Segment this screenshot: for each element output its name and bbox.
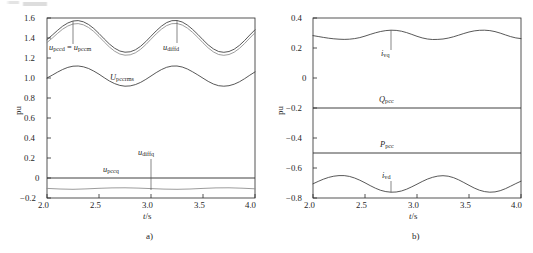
y-tick-label-b-6: −0.8	[286, 194, 302, 203]
y-tick-label-a-6: 0.4	[24, 134, 35, 143]
y-tick-label-a-7: 0.2	[24, 154, 35, 163]
x-tick-label-a-2: 3.0	[142, 201, 153, 210]
x-tick-label-b-3: 3.5	[460, 201, 471, 210]
y-tick-label-a-1: 1.4	[24, 34, 35, 43]
panel-caption-a: a)	[146, 231, 153, 241]
panel-b: 0.4 0.2 0 −0.2 −0.4 −0.6 −0.8 2.0 2.5 3.…	[266, 0, 532, 253]
y-tick-label-b-4: −0.4	[286, 134, 302, 143]
curve-label-U-pccrms: Upccrms	[110, 74, 134, 82]
y-tick-label-b-1: 0.2	[291, 44, 302, 53]
y-tick-label-a-8: 0	[35, 174, 39, 183]
x-tick-label-a-4: 4.0	[245, 201, 256, 210]
panel-caption-b: b)	[412, 231, 420, 241]
figure-container: 1.6 1.4 1.2 1.0 0.8 0.6 0.4 0.2 0 −0.2 2…	[0, 0, 533, 253]
curve-label-P-pcc: Ppcc	[380, 141, 394, 149]
y-axis-label-a: pu	[14, 106, 23, 115]
x-tick-label-a-0: 2.0	[38, 201, 49, 210]
y-tick-label-a-4: 0.8	[24, 94, 35, 103]
y-axis-label-b: pu	[276, 106, 285, 115]
x-axis-label-b: t/s	[409, 212, 417, 221]
x-tick-label-b-4: 4.0	[511, 201, 522, 210]
x-tick-label-b-1: 2.5	[356, 201, 367, 210]
y-tick-label-b-0: 0.4	[291, 14, 302, 23]
x-tick-label-a-3: 3.5	[194, 201, 205, 210]
curve-U-pccrms	[47, 66, 255, 86]
y-tick-label-a-0: 1.6	[24, 14, 35, 23]
x-tick-label-a-1: 2.5	[90, 201, 101, 210]
x-axis-label-a: t/s	[143, 212, 151, 221]
panel-a: 1.6 1.4 1.2 1.0 0.8 0.6 0.4 0.2 0 −0.2 2…	[0, 0, 266, 253]
curve-label-u-diffd: udiffd	[163, 44, 179, 52]
panel-b-plot	[266, 0, 532, 253]
x-ticks-a	[47, 194, 255, 198]
curve-label-u-pccd-pccm: upccd = upccm	[49, 44, 91, 52]
y-tick-label-b-5: −0.6	[286, 164, 302, 173]
x-tick-label-b-0: 2.0	[304, 201, 315, 210]
curve-i-vd	[313, 176, 521, 193]
curve-label-i-vd: ivd	[382, 172, 391, 180]
panel-a-plot	[0, 0, 266, 253]
curve-label-Q-pcc: Qpcc	[379, 96, 394, 104]
x-ticks-b	[313, 194, 521, 198]
y-tick-label-a-2: 1.2	[24, 54, 35, 63]
curve-label-u-diffq: udiffq	[138, 149, 154, 157]
y-tick-label-b-2: 0	[302, 74, 306, 83]
y-tick-label-b-3: −0.2	[286, 104, 302, 113]
curve-label-i-vq: ivq	[381, 50, 390, 58]
curve-label-u-pccq: upccq	[103, 166, 119, 174]
x-tick-label-b-2: 3.0	[408, 201, 419, 210]
y-tick-label-a-5: 0.6	[24, 114, 35, 123]
y-tick-label-a-3: 1.0	[24, 74, 35, 83]
y-tick-label-a-9: −0.2	[20, 194, 36, 203]
curve-i-vq	[313, 30, 521, 39]
